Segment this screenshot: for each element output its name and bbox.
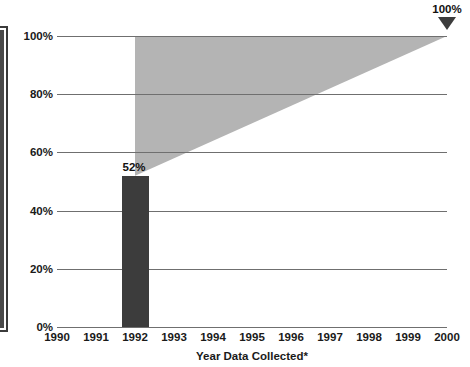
x-tick-1995: 1995 (230, 331, 274, 343)
y-tick-80: 80% (9, 88, 53, 100)
target-marker-label: 100% (417, 3, 470, 16)
x-tick-1996: 1996 (269, 331, 313, 343)
chart-plot-area: 52% 100% (57, 36, 447, 327)
down-triangle-icon (438, 17, 456, 30)
x-tick-1993: 1993 (152, 331, 196, 343)
gridline-0 (57, 327, 447, 328)
gridline-100 (57, 36, 447, 37)
x-tick-2000: 2000 (425, 331, 469, 343)
bar-1992 (122, 176, 149, 327)
gridline-20 (57, 269, 447, 270)
x-axis-title: Year Data Collected* (57, 350, 447, 362)
gridline-60 (57, 152, 447, 153)
x-tick-1990: 1990 (35, 331, 79, 343)
y-axis-tick-labels: 100%80%60%40%20%0% (5, 36, 53, 327)
x-tick-1998: 1998 (347, 331, 391, 343)
x-tick-1997: 1997 (308, 331, 352, 343)
x-tick-1991: 1991 (74, 331, 118, 343)
cropped-left-panel-fill (0, 30, 4, 328)
clipped-title-text (14, 0, 394, 3)
projection-wedge (57, 36, 447, 327)
y-tick-40: 40% (9, 205, 53, 217)
y-tick-100: 100% (9, 30, 53, 42)
x-axis-tick-labels: 1990199119921993199419951996199719981999… (57, 331, 447, 347)
target-marker-2000: 100% (417, 3, 470, 30)
gridline-40 (57, 211, 447, 212)
bar-value-label: 52% (123, 161, 146, 173)
y-tick-20: 20% (9, 263, 53, 275)
x-tick-1992: 1992 (113, 331, 157, 343)
x-tick-1999: 1999 (386, 331, 430, 343)
gridline-80 (57, 94, 447, 95)
y-tick-60: 60% (9, 146, 53, 158)
x-tick-1994: 1994 (191, 331, 235, 343)
